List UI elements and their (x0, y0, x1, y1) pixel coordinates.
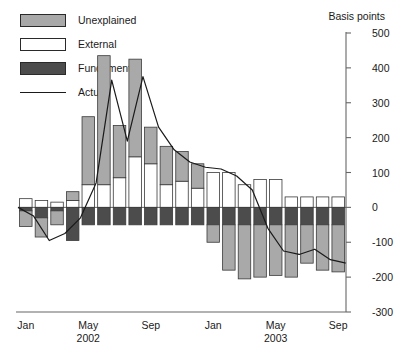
x-axis-tick-label: Jan (17, 320, 34, 331)
bar-segment-external (316, 197, 329, 207)
bar-segment-external (98, 185, 111, 208)
bar-segment-external (82, 185, 95, 208)
y-axis-tick-label: -200 (372, 272, 393, 283)
bar-group (113, 125, 126, 224)
bar-group (254, 179, 267, 277)
bar-group (191, 164, 204, 225)
legend-swatch-unexplained (20, 14, 66, 27)
bar-segment-external (160, 185, 173, 208)
x-axis-tick-label: Sep (141, 320, 160, 331)
legend-item-unexplained: Unexplained (20, 8, 139, 32)
bar-segment-unexplained (207, 225, 220, 242)
bar-segment-fundamental (160, 207, 173, 224)
bar-segment-unexplained (51, 211, 64, 225)
bar-segment-unexplained (66, 192, 79, 201)
bar-segment-fundamental (176, 207, 189, 224)
bar-segment-unexplained (223, 225, 236, 270)
bar-segment-external (238, 185, 251, 208)
bar-segment-unexplained (238, 225, 251, 279)
bar-segment-fundamental (129, 207, 142, 224)
bar-group (176, 152, 189, 225)
bar-segment-external (191, 188, 204, 207)
bar-group (82, 117, 95, 225)
bar-segment-unexplained (316, 225, 329, 270)
bar-segment-fundamental (238, 207, 251, 224)
bar-segment-fundamental (145, 207, 158, 224)
y-axis-tick-label: 0 (372, 202, 378, 213)
bar-segment-external (254, 179, 267, 207)
bar-segment-external (285, 197, 298, 207)
x-axis-tick-label: May (78, 320, 98, 331)
y-axis-tick-label: 100 (372, 167, 390, 178)
y-axis-tick-label: 400 (372, 63, 390, 74)
bar-segment-unexplained (98, 56, 111, 185)
y-axis-tick-label: 200 (372, 132, 390, 143)
bar-segment-fundamental (332, 207, 345, 224)
bar-segment-unexplained (301, 225, 314, 263)
bar-segment-external (145, 164, 158, 208)
bar-segment-unexplained (160, 146, 173, 184)
bar-segment-unexplained (191, 164, 204, 188)
bar-segment-fundamental (66, 207, 79, 240)
bar-segment-unexplained (332, 225, 345, 272)
bar-segment-unexplained (82, 117, 95, 185)
bar-segment-external (20, 199, 32, 208)
bar-segment-fundamental (191, 207, 204, 224)
bar-segment-external (113, 178, 126, 208)
x-axis-tick-label: Jan (205, 320, 222, 331)
bar-segment-external (207, 173, 220, 208)
bar-group (51, 202, 64, 225)
bar-segment-fundamental (223, 207, 236, 224)
bar-segment-external (35, 200, 48, 207)
chart-plot-area: 5004003002001000-100-200-300JanMay2002Se… (16, 32, 346, 313)
bar-segment-unexplained (285, 225, 298, 277)
x-axis-year-label: 2003 (264, 333, 287, 344)
y-axis-tick-label: 500 (372, 28, 390, 39)
bar-segment-unexplained (254, 225, 267, 277)
bar-segment-fundamental (301, 207, 314, 224)
bar-segment-fundamental (113, 207, 126, 224)
bar-group (316, 197, 329, 270)
bar-segment-external (269, 179, 282, 207)
bar-segment-external (129, 157, 142, 208)
bar-segment-unexplained (20, 211, 32, 227)
legend-label-unexplained: Unexplained (78, 15, 136, 26)
bar-group (238, 185, 251, 279)
bar-group (160, 146, 173, 224)
bar-segment-external (51, 202, 64, 207)
bar-segment-fundamental (269, 207, 282, 224)
bar-segment-unexplained (145, 127, 158, 164)
x-axis-tick-label: May (266, 320, 286, 331)
bar-segment-external (332, 197, 345, 207)
bar-group (129, 59, 142, 225)
y-axis-tick-label: -300 (372, 307, 393, 318)
bar-group (145, 127, 158, 225)
bar-group (285, 197, 298, 277)
chart-svg (16, 32, 398, 351)
y-axis-title: Basis points (328, 10, 385, 22)
bar-group (223, 173, 236, 271)
y-axis-tick-label: 300 (372, 98, 390, 109)
bar-segment-fundamental (51, 207, 64, 210)
y-axis-tick-label: -100 (372, 237, 393, 248)
bar-group (66, 192, 79, 241)
x-axis-tick-label: Sep (329, 320, 348, 331)
bar-segment-fundamental (207, 207, 220, 224)
bar-segment-external (66, 200, 79, 207)
bar-group (269, 179, 282, 275)
bar-group (35, 200, 48, 237)
bar-segment-fundamental (316, 207, 329, 224)
bar-group (20, 199, 32, 227)
bar-segment-fundamental (98, 207, 111, 224)
bar-segment-fundamental (35, 207, 48, 217)
bar-segment-external (176, 181, 189, 207)
x-axis-year-label: 2002 (77, 333, 100, 344)
bar-group (98, 56, 111, 225)
bar-segment-fundamental (285, 207, 298, 224)
bar-segment-external (301, 197, 314, 207)
bar-segment-unexplained (113, 125, 126, 177)
bar-segment-external (223, 173, 236, 208)
